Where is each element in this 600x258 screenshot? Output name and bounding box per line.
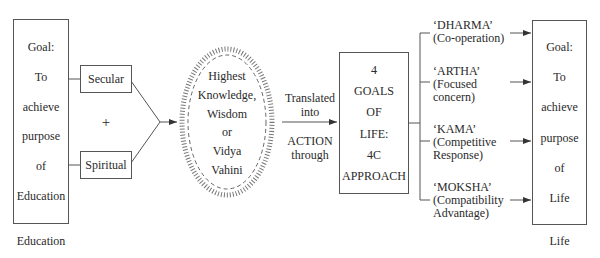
knowledge-line: Wisdom (207, 107, 247, 121)
knowledge-line: Highest (208, 69, 245, 83)
goals-box-line: 4C (367, 148, 381, 162)
knowledge-line: Vahini (211, 163, 242, 177)
goal-desc: Response) (433, 149, 496, 162)
connector-below-line: through (280, 148, 340, 162)
life-goal-line: of (555, 161, 565, 175)
life-goal-line: purpose (541, 131, 579, 145)
goal-moksha: ‘MOKSHA’ (Compatibility Advantage) (433, 181, 504, 220)
spiritual-label: Spiritual (80, 158, 132, 172)
goal-artha: ‘ARTHA’ (Focused concern) (433, 65, 480, 104)
life-goal-text: Goal: To achieve purpose of Life (532, 24, 587, 221)
education-goal-line: Goal: (28, 40, 55, 54)
education-goal-line: To (35, 70, 48, 84)
goals-box-line: GOALS (354, 84, 394, 98)
education-goal-line: achieve (23, 100, 60, 114)
goal-kama: ‘KAMA’ (Competitive Response) (433, 123, 496, 162)
education-caption: Education (8, 234, 74, 248)
secular-label: Secular (80, 72, 132, 86)
education-goal-line: of (36, 159, 46, 173)
knowledge-line: Vidya (213, 144, 242, 158)
education-goal-line: Education (17, 189, 66, 203)
life-goal-line: Goal: (546, 40, 573, 54)
connector-lines (0, 0, 600, 258)
life-caption: Life (532, 234, 587, 248)
connector-above-line: Translated (280, 91, 340, 105)
life-goal-line: Life (550, 191, 570, 205)
connector-above-line: into (280, 105, 340, 119)
goals-box-line: 4 (371, 63, 377, 77)
knowledge-ellipse-text: Highest Knowledge, Wisdom or Vidya Vahin… (187, 64, 267, 182)
four-goals-text: 4 GOALS OF LIFE: 4C APPROACH (339, 56, 409, 190)
goal-dharma: ‘DHARMA’ (Co-operation) (433, 19, 504, 45)
education-goal-text: Goal: To achieve purpose of Education (13, 24, 69, 219)
goals-box-line: OF (366, 105, 381, 119)
knowledge-line: or (222, 125, 232, 139)
goal-desc: concern) (433, 91, 480, 104)
action-through-label: ACTION through (280, 134, 340, 162)
translated-into-label: Translated into (280, 91, 340, 119)
life-goal-line: achieve (541, 100, 578, 114)
goals-box-line: LIFE: (360, 127, 389, 141)
life-goal-line: To (553, 70, 566, 84)
knowledge-line: Knowledge, (198, 88, 256, 102)
goals-box-line: APPROACH (342, 169, 406, 183)
education-goal-line: purpose (22, 129, 60, 143)
goal-desc: (Co-operation) (433, 32, 504, 45)
connector-below-line: ACTION (280, 134, 340, 148)
plus-sign: + (96, 115, 116, 129)
goal-desc: Advantage) (433, 207, 504, 220)
